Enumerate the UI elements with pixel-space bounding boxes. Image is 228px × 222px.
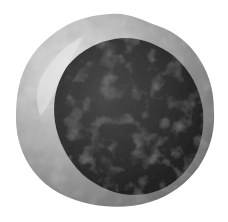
cell-render — [0, 0, 228, 222]
cell-illustration — [0, 0, 228, 222]
